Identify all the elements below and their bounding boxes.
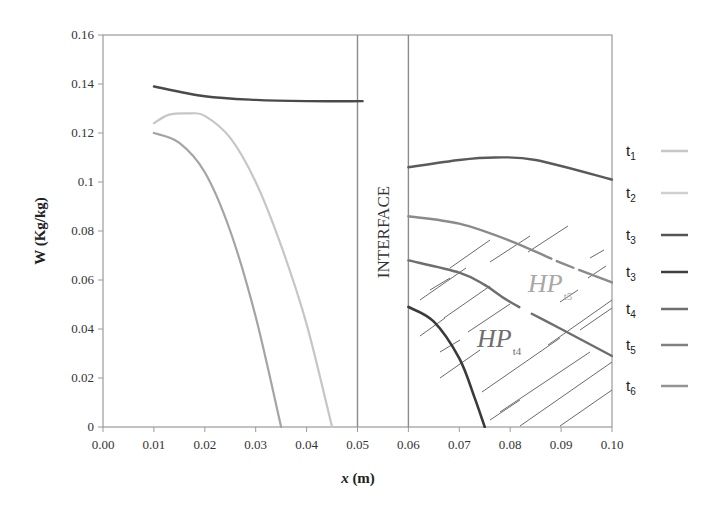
y-tick-label: 0.02 (71, 370, 94, 385)
x-tick-label: 0.00 (92, 437, 115, 452)
legend-item: t2 (626, 184, 688, 204)
y-tick-label: 0.12 (71, 125, 94, 140)
legend-label: t6 (626, 377, 636, 397)
x-tick-label: 0.03 (244, 437, 267, 452)
x-tick-label: 0.01 (143, 437, 166, 452)
x-tick-label: 0.04 (295, 437, 318, 452)
y-tick-label: 0.04 (71, 321, 94, 336)
y-axis-ticks: 00.020.040.060.080.10.120.140.16 (71, 27, 103, 434)
legend-item: t3 (626, 263, 688, 283)
interface-label: INTERFACE (374, 186, 393, 278)
x-tick-label: 0.07 (448, 437, 471, 452)
legend: t1t2t3t3t4t5t6 (626, 142, 688, 397)
x-tick-label: 0.10 (601, 437, 624, 452)
y-tick-label: 0.16 (71, 27, 94, 42)
y-tick-label: 0.1 (78, 174, 94, 189)
x-tick-label: 0.08 (499, 437, 522, 452)
legend-item: t5 (626, 336, 688, 356)
legend-label: t4 (626, 300, 636, 320)
legend-item: t6 (626, 377, 688, 397)
legend-item: t3 (626, 226, 688, 246)
y-tick-label: 0.08 (71, 223, 94, 238)
x-tick-label: 0.06 (397, 437, 420, 452)
y-tick-label: 0.14 (71, 76, 94, 91)
legend-label: t1 (626, 142, 636, 162)
x-tick-label: 0.02 (193, 437, 216, 452)
legend-item: t4 (626, 300, 688, 320)
x-tick-label: 0.09 (550, 437, 573, 452)
y-tick-label: 0 (88, 419, 95, 434)
legend-label: t3 (626, 263, 636, 283)
legend-label: t2 (626, 184, 636, 204)
x-axis-title: x (m) (340, 470, 375, 487)
y-axis-title: W (Kg/kg) (32, 197, 49, 265)
x-tick-label: 0.05 (346, 437, 369, 452)
moisture-content-chart: 00.020.040.060.080.10.120.140.16 0.000.0… (0, 0, 718, 511)
legend-item: t1 (626, 142, 688, 162)
legend-label: t3 (626, 226, 636, 246)
y-tick-label: 0.06 (71, 272, 94, 287)
x-axis-ticks: 0.000.010.020.030.040.050.060.070.080.09… (92, 427, 624, 452)
legend-label: t5 (626, 336, 636, 356)
